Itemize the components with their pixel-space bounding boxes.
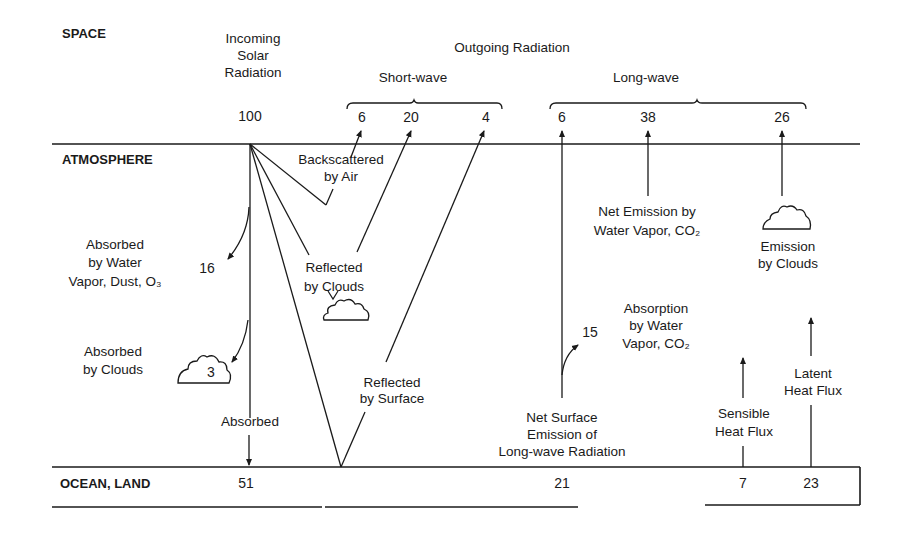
reflected-surface-label: Reflected by Surface <box>360 375 425 406</box>
layer-label-ocean-land: OCEAN, LAND <box>60 476 150 491</box>
absorbed-clouds-value: 3 <box>207 364 215 380</box>
surface-value-absorbed: 51 <box>238 475 254 491</box>
absorbed-clouds-label: Absorbed by Clouds <box>83 344 143 377</box>
svg-text:Absorption: Absorption <box>624 301 689 316</box>
longwave-paths <box>562 131 811 467</box>
svg-text:Radiation: Radiation <box>224 65 281 80</box>
svg-text:Latent: Latent <box>794 366 832 381</box>
shortwave-value-clouds: 20 <box>403 109 419 125</box>
svg-text:Long-wave Radiation: Long-wave Radiation <box>499 444 626 459</box>
svg-text:Net Emission by: Net Emission by <box>598 204 696 219</box>
surface-value-net-emission: 21 <box>554 475 570 491</box>
svg-text:Reflected: Reflected <box>305 260 362 275</box>
svg-text:by Clouds: by Clouds <box>83 362 143 377</box>
surface-value-latent: 23 <box>803 475 819 491</box>
svg-text:by Clouds: by Clouds <box>758 256 818 271</box>
absorbed-vapor-label: Absorbed by Water Vapor, Dust, O₃ <box>68 237 161 289</box>
radiation-balance-diagram: SPACE ATMOSPHERE OCEAN, LAND Incoming So… <box>0 0 911 539</box>
vapor-absorption-arrow <box>228 207 249 259</box>
svg-text:by Clouds: by Clouds <box>304 279 364 294</box>
longwave-value-surface: 6 <box>558 109 566 125</box>
shortwave-value-backscattered: 6 <box>358 109 366 125</box>
reflected-clouds-label: Reflected by Clouds <box>304 260 364 294</box>
svg-text:Absorbed: Absorbed <box>84 344 142 359</box>
shortwave-value-surface: 4 <box>482 109 490 125</box>
incoming-solar-label: Incoming Solar Radiation <box>224 31 281 80</box>
svg-text:Incoming: Incoming <box>226 31 281 46</box>
longwave-label: Long-wave <box>613 70 679 85</box>
cloud-icon-reflection <box>324 300 369 320</box>
absorption-vapor-value: 15 <box>582 324 598 340</box>
backscatter-path-up <box>326 189 333 205</box>
absorbed-label: Absorbed <box>221 414 279 429</box>
absorbed-vapor-value: 16 <box>199 260 215 276</box>
backscattered-label: Backscattered by Air <box>298 152 384 184</box>
layer-label-space: SPACE <box>62 26 106 41</box>
svg-text:Emission of: Emission of <box>527 427 597 442</box>
surface-value-sensible: 7 <box>739 475 747 491</box>
svg-text:Emission: Emission <box>761 239 816 254</box>
outgoing-radiation-title: Outgoing Radiation <box>454 40 570 55</box>
net-emission-label: Net Emission by Water Vapor, CO₂ <box>594 204 701 238</box>
vapor-absorption-15-arrow <box>562 345 578 375</box>
svg-text:Sensible: Sensible <box>718 406 770 421</box>
latent-heat-label: Latent Heat Flux <box>784 366 842 398</box>
svg-text:Vapor, CO₂: Vapor, CO₂ <box>622 336 689 351</box>
svg-text:by Water: by Water <box>629 318 683 333</box>
svg-text:Vapor, Dust, O₃: Vapor, Dust, O₃ <box>68 274 161 289</box>
absorption-vapor-label: Absorption by Water Vapor, CO₂ <box>622 301 689 351</box>
shortwave-label: Short-wave <box>379 70 447 85</box>
svg-text:Heat Flux: Heat Flux <box>715 424 773 439</box>
sensible-heat-label: Sensible Heat Flux <box>715 406 773 439</box>
svg-text:Net Surface: Net Surface <box>526 410 597 425</box>
cloud-icon-emission <box>763 206 811 229</box>
svg-text:by Air: by Air <box>324 169 358 184</box>
cloud-icon-absorption <box>178 356 231 383</box>
longwave-brace <box>550 100 806 109</box>
svg-text:Backscattered: Backscattered <box>298 152 384 167</box>
incoming-value: 100 <box>238 108 262 124</box>
shortwave-brace <box>347 100 502 109</box>
svg-text:Absorbed: Absorbed <box>86 237 144 252</box>
cloud-absorption-arrow <box>232 320 248 362</box>
svg-text:by Water: by Water <box>88 255 142 270</box>
svg-text:Heat Flux: Heat Flux <box>784 383 842 398</box>
svg-text:Solar: Solar <box>237 48 269 63</box>
longwave-value-clouds: 26 <box>774 109 790 125</box>
net-surface-label: Net Surface Emission of Long-wave Radiat… <box>499 410 626 459</box>
surface-reflection-arrow-out <box>386 131 484 362</box>
svg-text:Water Vapor, CO₂: Water Vapor, CO₂ <box>594 223 701 238</box>
svg-text:Reflected: Reflected <box>363 375 420 390</box>
layer-label-atmosphere: ATMOSPHERE <box>62 152 153 167</box>
longwave-value-vapor: 38 <box>640 109 656 125</box>
surface-reflection-path-out-lower <box>341 412 365 467</box>
cloud-reflection-arrow-out <box>357 131 411 252</box>
svg-text:by Surface: by Surface <box>360 391 425 406</box>
emission-clouds-label: Emission by Clouds <box>758 239 818 271</box>
